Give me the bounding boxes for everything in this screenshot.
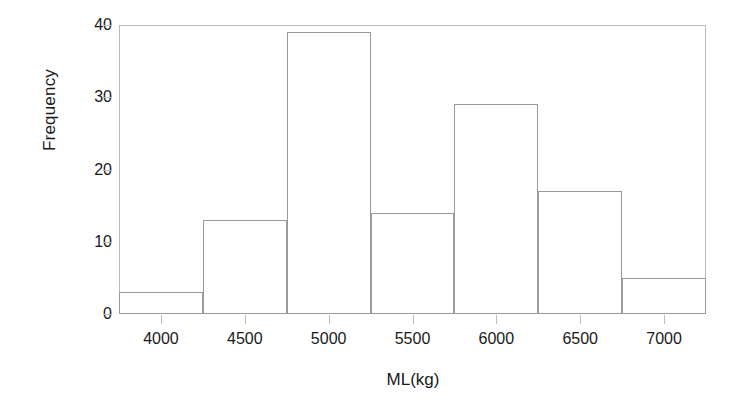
x-tick-label: 4000 [126, 330, 196, 348]
y-tick-mark [103, 25, 111, 26]
x-tick-label: 5000 [294, 330, 364, 348]
histogram-bar [538, 191, 622, 314]
histogram-figure: Frequency 010203040 ML(kg) 4000450050005… [0, 0, 729, 410]
x-tick-label: 6500 [545, 330, 615, 348]
x-tick-mark [664, 315, 665, 324]
x-axis-title: ML(kg) [120, 370, 706, 390]
x-tick-mark [413, 315, 414, 324]
y-tick-mark [103, 314, 111, 315]
x-tick-mark [245, 315, 246, 324]
x-tick-mark [580, 315, 581, 324]
y-axis-ticks: 010203040 [52, 0, 112, 410]
x-tick-label: 5500 [378, 330, 448, 348]
histogram-bar [622, 278, 706, 314]
bars-layer [119, 25, 706, 314]
histogram-bar [119, 292, 203, 314]
y-tick-mark [103, 97, 111, 98]
x-tick-mark [161, 315, 162, 324]
x-tick-mark [329, 315, 330, 324]
histogram-bar [287, 32, 371, 314]
histogram-bar [454, 104, 538, 314]
y-tick-mark [103, 170, 111, 171]
x-tick-label: 6000 [461, 330, 531, 348]
histogram-bar [371, 213, 455, 314]
x-tick-label: 7000 [629, 330, 699, 348]
x-tick-mark [496, 315, 497, 324]
y-tick-mark [103, 242, 111, 243]
histogram-bar [203, 220, 287, 314]
x-tick-label: 4500 [210, 330, 280, 348]
